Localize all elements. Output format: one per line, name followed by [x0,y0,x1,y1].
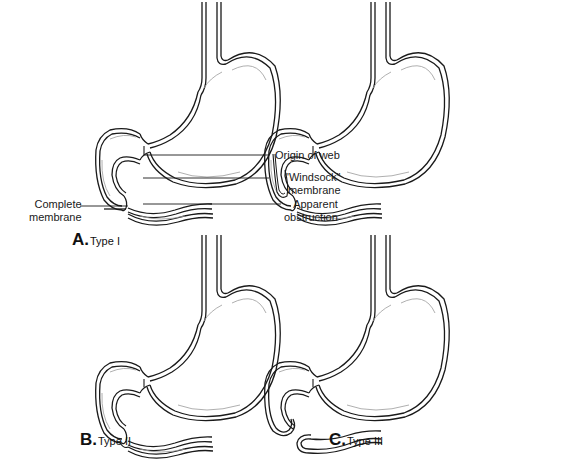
label-line: Origin of web [275,149,340,162]
panel-b-stomach [96,235,281,458]
caption-type: Type I [90,235,120,247]
label-line: obstruction [284,211,338,224]
caption-b: B. Type II [80,430,131,450]
label-apparent-obstruction: Apparent obstruction [284,198,338,224]
caption-letter: A. [72,230,89,250]
panel-a-stomach [80,2,280,225]
label-line: "Windsock" [285,171,341,184]
label-complete-membrane: Complete membrane [29,198,82,224]
label-line: membrane [29,211,82,224]
caption-letter: B. [80,430,97,450]
caption-type: Type III [347,435,383,447]
label-line: Complete [29,198,82,211]
label-line: membrane [285,184,341,197]
panel-c-stomach [265,235,450,453]
caption-a: A. Type I [72,230,120,250]
caption-type: Type II [98,435,131,447]
label-line: Apparent [284,198,338,211]
label-origin-of-web: Origin of web [275,149,340,162]
caption-letter: C. [329,430,346,450]
label-windsock-membrane: "Windsock" membrane [285,171,341,197]
caption-c: C. Type III [329,430,383,450]
